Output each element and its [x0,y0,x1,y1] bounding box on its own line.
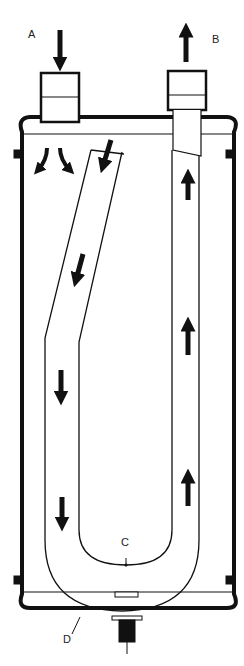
label-a: A [28,29,35,40]
bleed-hole [124,563,127,566]
label-b: B [212,34,219,45]
inlet-fitting [41,73,79,122]
label-d: D [63,634,71,645]
flow-down-arrows [61,140,111,524]
outlet-fitting [168,71,206,156]
drain-fitting [112,592,142,654]
housing [14,117,236,608]
u-tube-diagram [0,0,244,666]
label-c: C [121,537,129,548]
deflect-arrow-left-icon [38,148,47,170]
deflect-arrow-right-icon [60,148,70,170]
